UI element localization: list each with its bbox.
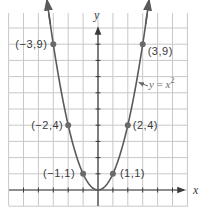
- point-label: (−3,9): [15, 38, 47, 50]
- point-label: (2,4): [133, 119, 158, 131]
- data-point: [110, 171, 116, 177]
- data-point: [140, 41, 146, 47]
- point-label: (3,9): [148, 45, 173, 57]
- data-point: [80, 171, 86, 177]
- data-point: [65, 122, 71, 128]
- point-label: (−1,1): [43, 167, 75, 179]
- equation-label: y = x2: [148, 76, 175, 90]
- point-label: (−2,4): [31, 119, 63, 131]
- y-axis-label: y: [93, 8, 100, 22]
- parabola-chart: (−3,9)(−2,4)(−1,1)(1,1)(2,4)(3,9) y = x2…: [0, 0, 205, 217]
- data-point: [125, 122, 131, 128]
- point-label: (1,1): [120, 167, 145, 179]
- x-axis-label: x: [192, 183, 199, 197]
- data-point: [50, 41, 56, 47]
